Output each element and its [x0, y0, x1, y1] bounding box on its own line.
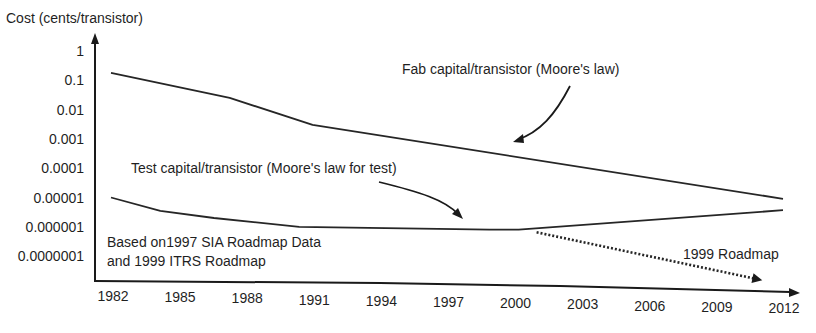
- y-tick-label: 0.001: [49, 131, 84, 147]
- annotation-note-line2: and 1999 ITRS Roadmap: [107, 253, 266, 269]
- arrow-test: [379, 182, 458, 214]
- x-tick-label: 2000: [500, 295, 531, 311]
- y-tick-label: 0.01: [57, 102, 84, 118]
- arrow-fab: [517, 86, 570, 140]
- x-tick-label: 1997: [433, 294, 464, 310]
- y-axis-label: Cost (cents/transistor): [6, 10, 143, 26]
- y-tick-label: 0.0001: [41, 160, 84, 176]
- x-tick-label: 2009: [701, 299, 732, 315]
- y-tick-label: 0.00001: [33, 190, 84, 206]
- y-tick-label: 0.1: [65, 72, 85, 88]
- x-axis-arrow-icon: [789, 288, 800, 297]
- annotation-test: Test capital/transistor (Moore's law for…: [131, 160, 397, 176]
- x-tick-label: 1988: [232, 290, 263, 306]
- arrow-fab-head-icon: [513, 134, 524, 143]
- series-line-0: [111, 73, 783, 199]
- annotation-roadmap: 1999 Roadmap: [683, 246, 779, 262]
- x-tick-label: 2006: [634, 298, 665, 314]
- x-tick-labels: 1982198519881991199419972000200320062009…: [97, 288, 799, 316]
- y-tick-label: 1: [76, 43, 84, 59]
- annotation-note-line1: Based on1997 SIA Roadmap Data: [107, 234, 321, 250]
- y-tick-label: 0.000001: [26, 219, 85, 235]
- y-tick-labels: 10.10.010.0010.00010.000010.0000010.0000…: [18, 43, 84, 264]
- chart: Cost (cents/transistor) 10.10.010.0010.0…: [0, 0, 816, 333]
- x-tick-label: 1991: [299, 292, 330, 308]
- y-tick-label: 0.0000001: [18, 248, 84, 264]
- x-tick-label: 2003: [567, 296, 598, 312]
- x-axis: [95, 281, 790, 292]
- x-tick-label: 1994: [366, 293, 397, 309]
- annotation-fab: Fab capital/transistor (Moore's law): [402, 61, 619, 77]
- series-line-1: [111, 198, 783, 230]
- annotations: Fab capital/transistor (Moore's law) Tes…: [107, 61, 779, 269]
- x-tick-label: 1985: [165, 289, 196, 305]
- roadmap-arrow-head-icon: [751, 273, 762, 283]
- x-tick-label: 1982: [97, 288, 128, 304]
- x-tick-label: 2012: [768, 300, 799, 316]
- y-axis-arrow-icon: [91, 33, 99, 44]
